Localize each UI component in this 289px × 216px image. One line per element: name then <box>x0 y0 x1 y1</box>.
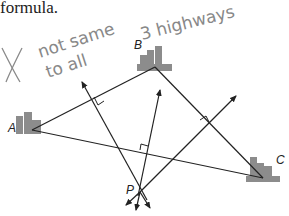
perpendicular-bisectors <box>82 82 236 210</box>
figure-page: formula. not same to all 3 highways <box>0 0 289 216</box>
svg-text:3 highways: 3 highways <box>138 1 237 44</box>
city-icon-c <box>246 157 280 182</box>
triangle-abc <box>32 67 263 178</box>
label-p: P <box>126 183 134 197</box>
handwritten-x-mark <box>2 48 22 82</box>
label-b: B <box>134 38 142 52</box>
geometry-diagram: not same to all 3 highways <box>0 0 289 216</box>
label-c: C <box>276 153 285 167</box>
label-a: A <box>8 121 16 135</box>
